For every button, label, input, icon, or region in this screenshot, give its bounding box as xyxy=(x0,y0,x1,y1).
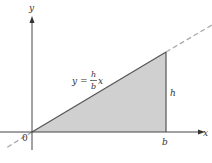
equation-lhs: y xyxy=(71,76,78,86)
base-label: b xyxy=(162,137,168,147)
line-equation: y = h b x xyxy=(71,70,103,91)
equation-denominator: b xyxy=(91,82,96,91)
triangle-diagram: y x 0 b h y = h b x xyxy=(0,0,212,163)
equation-numerator: h xyxy=(91,70,96,79)
equation-variable: x xyxy=(98,76,103,86)
height-label: h xyxy=(170,88,176,98)
origin-label: 0 xyxy=(22,133,28,143)
y-axis-arrow-icon xyxy=(30,16,35,23)
equation-equals: = xyxy=(80,76,88,86)
dashed-line-extension-lower xyxy=(6,132,32,148)
x-axis-label: x xyxy=(203,128,208,138)
dashed-line-extension-upper xyxy=(166,25,212,52)
y-axis-label: y xyxy=(28,3,35,13)
